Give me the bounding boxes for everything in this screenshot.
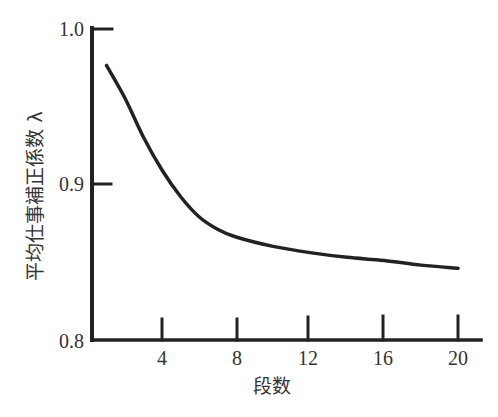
axes bbox=[92, 28, 481, 340]
chart-svg: 1.0 0.9 0.8 4 8 12 16 20 段数 平均仕事補正係数 λ bbox=[0, 0, 498, 417]
y-tick-label-1.0: 1.0 bbox=[59, 18, 84, 40]
x-tick-label-8: 8 bbox=[232, 347, 242, 369]
y-tick-label-0.8: 0.8 bbox=[59, 330, 84, 352]
y-tick-label-0.9: 0.9 bbox=[59, 173, 84, 195]
x-tick-label-20: 20 bbox=[448, 347, 468, 369]
y-axis-title: 平均仕事補正係数 λ bbox=[24, 111, 46, 280]
x-tick-label-12: 12 bbox=[298, 347, 318, 369]
x-axis-title: 段数 bbox=[253, 375, 291, 397]
x-tick-label-4: 4 bbox=[157, 347, 167, 369]
lambda-curve bbox=[107, 65, 459, 268]
x-tick-label-16: 16 bbox=[373, 347, 393, 369]
